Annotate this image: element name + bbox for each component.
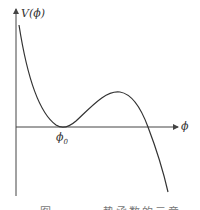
- figure-caption: 图 ．．．．．势函数的示意: [40, 203, 170, 210]
- potential-curve: [19, 25, 168, 192]
- y-axis-label: V(ϕ): [21, 8, 45, 19]
- potential-diagram: [0, 0, 200, 210]
- minimum-label-base: ϕ: [56, 131, 64, 144]
- x-axis-label: ϕ: [181, 121, 189, 132]
- minimum-label-subscript: 0: [64, 138, 68, 146]
- minimum-label: ϕ0: [56, 132, 68, 146]
